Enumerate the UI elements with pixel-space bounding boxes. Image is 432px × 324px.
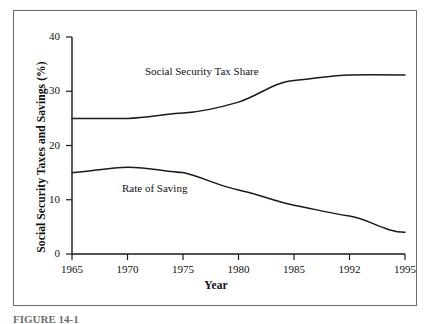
- series-line-rate-of-saving: [72, 167, 405, 232]
- x-tick-label-1995: 1995: [383, 263, 427, 275]
- figure-caption: FIGURE 14-1: [13, 314, 417, 324]
- x-tick-label-1965: 1965: [50, 263, 94, 275]
- chart-frame: 0 10 20 30 40 1965 1970 1975 1980 1985 1…: [13, 10, 417, 306]
- y-axis-title: Social Security Taxes and Savings (%): [35, 42, 47, 272]
- x-axis-title: Year: [14, 279, 418, 291]
- series-label-rate-of-saving: Rate of Saving: [122, 182, 187, 194]
- series-line-social-security-tax-share: [72, 75, 405, 119]
- x-tick-label-1980: 1980: [217, 263, 261, 275]
- series-label-social-security-tax-share: Social Security Tax Share: [145, 65, 259, 77]
- x-tick-label-1975: 1975: [161, 263, 205, 275]
- y-tick-label-40: 40: [30, 30, 60, 42]
- x-tick-label-1970: 1970: [106, 263, 150, 275]
- plot-area: 0 10 20 30 40 1965 1970 1975 1980 1985 1…: [14, 11, 418, 307]
- figure-root: 0 10 20 30 40 1965 1970 1975 1980 1985 1…: [0, 0, 432, 324]
- x-tick-label-1985: 1985: [272, 263, 316, 275]
- x-axis-ticks: [72, 254, 405, 260]
- y-axis-ticks: [66, 37, 72, 254]
- x-tick-label-1992: 1992: [328, 263, 372, 275]
- figure-caption-strip: FIGURE 14-1: [13, 314, 417, 324]
